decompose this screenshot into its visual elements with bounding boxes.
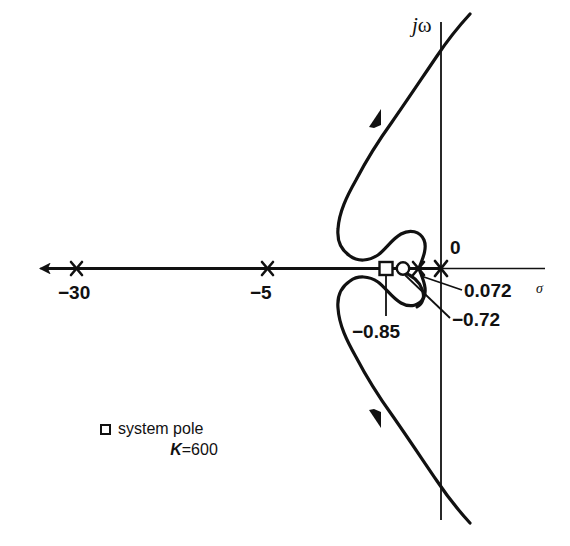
legend-row-system-pole: system pole bbox=[90, 420, 290, 438]
legend: system pole K=600 bbox=[90, 420, 290, 459]
real-axis-label: σ bbox=[536, 282, 543, 296]
imaginary-axis-label: jω bbox=[412, 15, 432, 36]
label-pole-minus30: −30 bbox=[58, 283, 90, 302]
leader-line-zero bbox=[405, 275, 450, 318]
label-zero-minus072: −0.72 bbox=[452, 310, 500, 329]
label-system-pole-minus085: −0.85 bbox=[352, 322, 400, 341]
legend-square-icon bbox=[100, 424, 111, 435]
locus-lower-branch bbox=[338, 269, 470, 523]
legend-gain-variable: K bbox=[170, 441, 182, 458]
root-locus-canvas bbox=[0, 0, 570, 546]
legend-label: system pole bbox=[118, 420, 203, 438]
zero-marker bbox=[397, 262, 409, 274]
label-origin: 0 bbox=[450, 238, 461, 257]
locus-upper-branch bbox=[338, 14, 470, 268]
label-pole-minus5: −5 bbox=[250, 283, 272, 302]
legend-gain: K=600 bbox=[90, 441, 290, 459]
system-pole-marker bbox=[380, 262, 393, 275]
locus-lower-arrowhead bbox=[369, 409, 381, 428]
root-locus-figure: −30 −5 0 0.072 −0.72 −0.85 jω σ system p… bbox=[0, 0, 570, 546]
label-pole-0072: 0.072 bbox=[464, 281, 512, 300]
imaginary-axis-label-omega: ω bbox=[418, 13, 432, 37]
legend-gain-value: =600 bbox=[182, 441, 218, 458]
locus-upper-arrowhead bbox=[369, 109, 381, 128]
